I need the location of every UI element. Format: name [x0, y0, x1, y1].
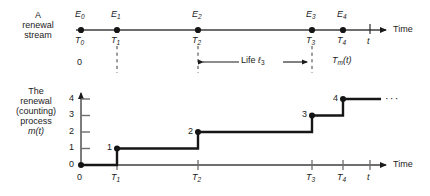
y-tick-label-2: 2 — [69, 126, 74, 136]
renewal-process-figure: A renewal stream The renewal (counting) … — [0, 0, 430, 196]
event-label-E1: E1 — [111, 9, 121, 19]
event-label-E0: E0 — [75, 9, 85, 19]
x-tick-label-T4: T4 — [337, 172, 346, 182]
y-tick-label-0: 0 — [69, 159, 74, 169]
event-marker-E1 — [114, 27, 120, 33]
stream-dashed-guides — [117, 46, 312, 73]
event-label-E2: E2 — [192, 9, 202, 19]
stream-origin-label: 0 — [77, 57, 82, 67]
y-tick-label-3: 3 — [69, 109, 74, 119]
time-label-T0: T0 — [75, 35, 84, 45]
time-label-T4: T4 — [337, 35, 346, 45]
step-point-0 — [78, 162, 84, 168]
time-label-T1: T1 — [111, 35, 120, 45]
step-value-label-2: 2 — [188, 126, 193, 136]
event-label-E4: E4 — [337, 9, 347, 19]
event-label-E3: E3 — [306, 9, 316, 19]
step-value-label-4: 4 — [333, 93, 338, 103]
counting-axis-title: Time — [393, 159, 413, 169]
residual-life-label: Tm(t) — [332, 55, 351, 65]
figure-canvas — [0, 0, 430, 196]
event-marker-E3 — [309, 27, 315, 33]
step-point-1 — [114, 146, 120, 152]
time-label-T2: T2 — [192, 35, 201, 45]
x-tick-label-t: t — [367, 172, 370, 182]
step-continuation-ellipsis: ··· — [385, 92, 400, 104]
y-tick-label-1: 1 — [69, 142, 74, 152]
stream-label-t: t — [367, 36, 370, 46]
counting-step-function — [81, 99, 381, 165]
renewal-stream-axis — [76, 24, 386, 34]
event-marker-E0 — [78, 27, 84, 33]
x-tick-label-0: 0 — [77, 172, 82, 182]
step-point-4 — [340, 96, 346, 102]
x-tick-label-T3: T3 — [306, 172, 315, 182]
step-point-2 — [195, 129, 201, 135]
x-tick-label-T2: T2 — [192, 172, 201, 182]
time-label-T3: T3 — [306, 35, 315, 45]
step-value-label-3: 3 — [302, 109, 307, 119]
y-tick-label-4: 4 — [69, 93, 74, 103]
event-marker-E4 — [340, 27, 346, 33]
life-interval-label: Life ℓ3 — [241, 55, 265, 65]
step-value-label-1: 1 — [107, 142, 112, 152]
x-tick-label-T1: T1 — [111, 172, 120, 182]
step-point-3 — [309, 113, 315, 119]
event-marker-E2 — [195, 27, 201, 33]
stream-axis-title: Time — [393, 24, 413, 34]
